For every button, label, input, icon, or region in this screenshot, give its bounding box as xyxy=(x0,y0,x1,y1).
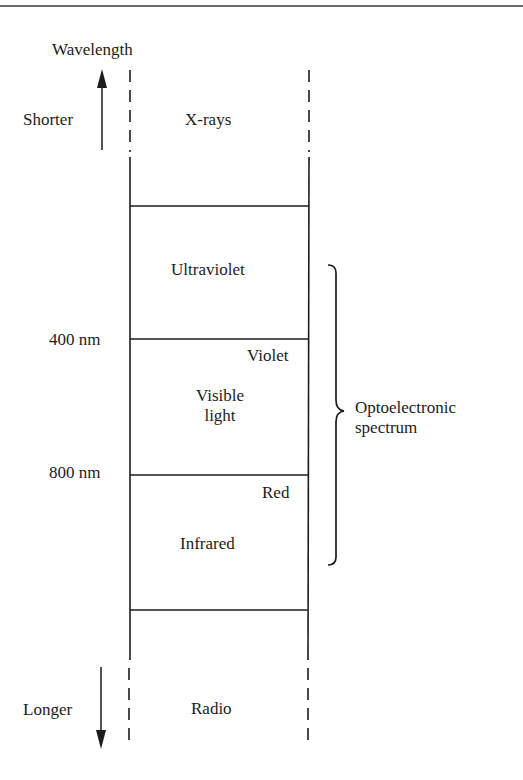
band-visible-light: Visible light xyxy=(170,386,270,426)
band-ultraviolet: Ultraviolet xyxy=(171,260,245,280)
brace-label-line2: spectrum xyxy=(355,418,456,438)
band-infrared: Infrared xyxy=(180,534,235,554)
boundary-label-800nm: 800 nm xyxy=(49,463,100,483)
shorter-label: Shorter xyxy=(23,110,73,130)
brace-icon xyxy=(328,265,344,565)
edge-label-red: Red xyxy=(262,483,289,503)
band-xrays: X-rays xyxy=(185,110,231,130)
edge-label-violet: Violet xyxy=(247,346,288,366)
longer-label: Longer xyxy=(23,700,72,720)
arrow-down-icon xyxy=(96,667,106,749)
arrow-up-icon xyxy=(97,69,107,150)
right-solid xyxy=(308,157,309,660)
axis-title: Wavelength xyxy=(52,40,133,60)
brace-label: Optoelectronic spectrum xyxy=(355,398,456,438)
band-visible-line1: Visible xyxy=(170,386,270,406)
brace-label-line1: Optoelectronic xyxy=(355,398,456,418)
boundary-label-400nm: 400 nm xyxy=(49,330,100,350)
band-visible-line2: light xyxy=(170,406,270,426)
band-radio: Radio xyxy=(191,699,232,719)
